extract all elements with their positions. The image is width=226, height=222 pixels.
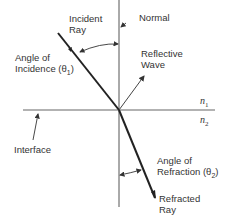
angle-incidence-arc <box>80 44 118 52</box>
label-incident-ray: Incident Ray <box>69 13 102 35</box>
label-angle-incidence: Angle of Incidence (θ1) <box>15 52 74 78</box>
refraction-diagram <box>0 0 226 222</box>
refracted-ray <box>119 110 155 198</box>
label-reflective-wave: Reflective Wave <box>141 48 183 70</box>
label-interface: Interface <box>14 144 51 155</box>
label-n1: n1 <box>200 95 209 109</box>
label-n2: n2 <box>200 114 209 128</box>
label-refracted-ray: Refracted Ray <box>159 193 200 215</box>
label-normal: Normal <box>139 12 170 23</box>
label-angle-refraction: Angle of Refraction (θ2) <box>157 155 218 181</box>
normal-pointer <box>121 23 126 27</box>
interface-pointer <box>33 114 38 140</box>
angle-refraction-arc <box>120 170 141 175</box>
reflective-wave-ray <box>119 76 144 110</box>
